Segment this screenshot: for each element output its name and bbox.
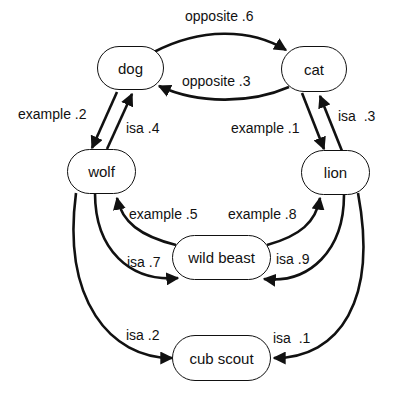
edge-cat-lion-example [302,93,324,149]
edge-dog-cat-opposite [154,34,286,52]
node-lion: lion [301,150,370,195]
edge-label-example-8: example .8 [228,206,296,222]
edge-label-isa-1: isa .1 [273,330,310,346]
edge-label-isa-7: isa .7 [127,254,160,270]
node-wild-beast: wild beast [172,235,271,280]
edge-label-isa-3: isa .3 [338,108,375,124]
semantic-network-diagram: dog cat wolf lion wild beast cub scout o… [0,0,396,397]
node-wolf: wolf [67,149,136,194]
edge-label-opposite-3: opposite .3 [182,73,251,89]
edge-dog-wolf-example [92,92,117,148]
edge-label-example-2: example .2 [18,106,86,122]
node-cub-scout: cub scout [172,335,271,381]
edge-label-example-5: example .5 [129,206,197,222]
edge-label-isa-4: isa .4 [126,120,159,136]
edge-label-isa-2: isa .2 [126,327,159,343]
node-cat: cat [281,46,347,92]
node-dog: dog [97,46,164,90]
edge-label-isa-9: isa .9 [276,251,309,267]
edge-label-opposite-6: opposite .6 [185,8,254,24]
edge-label-example-1: example .1 [231,120,299,136]
